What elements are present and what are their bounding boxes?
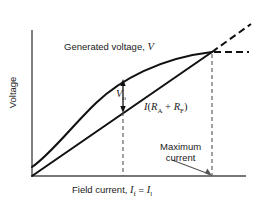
plot-canvas (0, 0, 260, 204)
maximum-current-leader-arrowhead (205, 169, 212, 176)
x-axis-label: Field current, If = Il (72, 184, 152, 198)
generator-characteristic-figure: Voltage Field current, If = Il Generated… (0, 0, 260, 204)
y-axis-label: Voltage (8, 64, 19, 120)
vo-label: Vo (116, 88, 126, 102)
resistance-line-extension-dashed (212, 24, 251, 52)
maximum-current-line2: current (160, 153, 201, 164)
x-axis-equals: = (136, 184, 147, 195)
ir-armature-resistance: RA (151, 101, 162, 112)
ir-plus: + (162, 101, 173, 112)
resistance-drop-label: I(RA + RF) (144, 101, 187, 115)
generated-voltage-label: Generated voltage, V (64, 41, 154, 53)
maximum-current-label: Maximum current (160, 142, 201, 164)
ir-field-resistance: RF (174, 101, 184, 112)
generated-voltage-text: Generated voltage, (64, 41, 147, 52)
generated-voltage-symbol: V (147, 41, 153, 52)
x-axis-label-text: Field current, (72, 184, 130, 195)
vo-subscript: o (122, 94, 126, 102)
ir-close-paren: ) (184, 101, 188, 112)
x-axis-symbol-il: Il (147, 184, 152, 195)
